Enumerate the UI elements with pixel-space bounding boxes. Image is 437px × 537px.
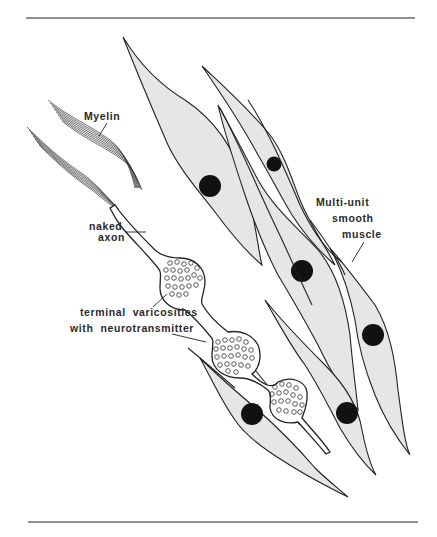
label-naked-axon-2: axon [98, 231, 125, 243]
label-muscle-1: Multi-unit [316, 196, 369, 208]
nucleus-1 [199, 175, 221, 197]
smooth-muscle-innervation-diagram: Myelin naked axon terminal varicosities … [0, 0, 437, 537]
nucleus-5 [336, 402, 358, 424]
myelin-sheath-lower [27, 127, 119, 209]
leader-myelin [99, 123, 107, 136]
label-muscle-2: smooth [332, 212, 374, 224]
nucleus-3 [291, 260, 313, 282]
nucleus-4 [362, 324, 384, 346]
label-varicosities-2: with neurotransmitter [69, 322, 194, 334]
leader-varicosity-2 [172, 334, 206, 342]
leader-muscle [352, 242, 364, 262]
label-myelin: Myelin [84, 110, 120, 122]
label-varicosities-1: terminal varicosities [80, 306, 198, 318]
label-muscle-3: muscle [342, 228, 382, 240]
nucleus-6 [241, 403, 263, 425]
